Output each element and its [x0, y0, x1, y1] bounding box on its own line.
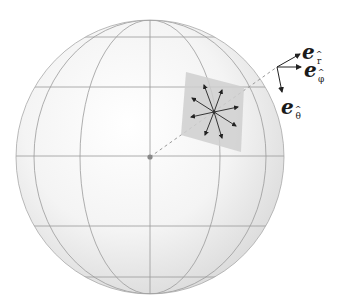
label-e-phi-sub: ^φ	[318, 69, 325, 83]
label-e-theta: e^θ	[281, 97, 301, 117]
sub-symbol: φ	[318, 74, 324, 84]
label-e-phi: e^φ	[304, 60, 324, 80]
unit-vectors	[277, 54, 301, 92]
center-dot	[147, 154, 152, 159]
tangent-point	[212, 110, 215, 113]
sub-symbol: θ	[295, 111, 300, 121]
label-e-theta-base: e	[281, 95, 294, 119]
label-e-phi-base: e	[304, 58, 317, 82]
sphere-diagram	[0, 0, 339, 306]
label-e-theta-sub: ^θ	[295, 106, 302, 120]
